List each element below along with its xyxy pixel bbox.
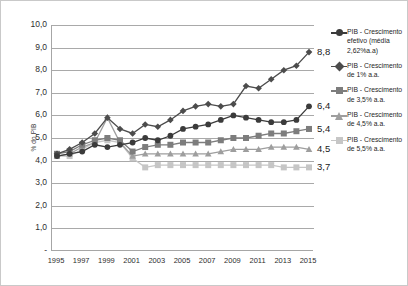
y-tick-label: 8,0 xyxy=(13,64,47,74)
light-square-marker xyxy=(331,135,347,146)
legend-entry[interactable]: PIB - Crescimento efetivo (média 2,62%a.… xyxy=(331,27,407,55)
legend-label: PIB - Crescimento de 4,5% a.a. xyxy=(347,110,407,129)
triangle-marker xyxy=(331,110,347,121)
legend-label: PIB - Crescimento de 1% a.a. xyxy=(347,61,407,80)
legend-entry[interactable]: PIB - Crescimento de 3,5% a.a. xyxy=(331,85,407,104)
y-tick-label: 9,0 xyxy=(13,42,47,52)
y-tick-label: 10,0 xyxy=(13,19,47,29)
end-value-label: 3,7 xyxy=(317,161,330,172)
y-tick-label: 3,0 xyxy=(13,177,47,187)
y-tick-label: - xyxy=(13,245,47,255)
end-value-label: 8,8 xyxy=(317,46,330,57)
chart-container: % do PIB 10,09,08,07,06,05,04,03,02,01,0… xyxy=(0,0,408,286)
series-layer xyxy=(52,25,314,251)
square-marker xyxy=(331,85,347,96)
y-tick-label: 7,0 xyxy=(13,87,47,97)
y-tick-label: 4,0 xyxy=(13,155,47,165)
y-tick-label: 2,0 xyxy=(13,200,47,210)
legend-entry[interactable]: PIB - Crescimento de 1% a.a. xyxy=(331,61,407,80)
x-tick-label: 2015 xyxy=(293,256,323,265)
circle-marker xyxy=(331,27,347,38)
legend-label: PIB - Crescimento efetivo (média 2,62%a.… xyxy=(347,27,407,55)
end-value-label: 6,4 xyxy=(317,100,330,111)
y-tick-label: 5,0 xyxy=(13,132,47,142)
diamond-marker xyxy=(331,61,347,72)
legend-label: PIB - Crescimento de 3,5% a.a. xyxy=(347,85,407,104)
y-tick-label: 1,0 xyxy=(13,222,47,232)
chart-legend: PIB - Crescimento efetivo (média 2,62%a.… xyxy=(331,27,407,159)
y-tick-label: 6,0 xyxy=(13,109,47,119)
legend-entry[interactable]: PIB - Crescimento de 4,5% a.a. xyxy=(331,110,407,129)
end-value-label: 5,4 xyxy=(317,123,330,134)
legend-entry[interactable]: PIB - Crescimento de 5,5% a.a. xyxy=(331,135,407,154)
legend-label: PIB - Crescimento de 5,5% a.a. xyxy=(347,135,407,154)
plot-area xyxy=(51,25,313,251)
end-value-label: 4,5 xyxy=(317,143,330,154)
